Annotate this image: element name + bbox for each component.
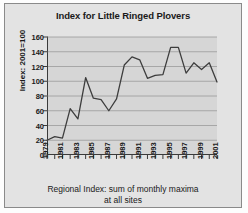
x-tick-1987: 1987 [103, 142, 112, 159]
x-axis-caption-line-1: Regional Index: sum of monthly maxima [5, 184, 241, 194]
x-tick-1979: 1979 [41, 142, 50, 159]
y-tick-120: 120 [31, 62, 44, 71]
x-tick-1997: 1997 [180, 142, 189, 159]
x-tick-1983: 1983 [72, 142, 81, 159]
y-tick-60: 60 [36, 106, 44, 115]
y-axis-label: Index: 2001=100 [18, 6, 27, 116]
y-tick-80: 80 [36, 92, 44, 101]
x-tick-1985: 1985 [87, 142, 96, 159]
x-tick-1989: 1989 [118, 142, 127, 159]
x-tick-1995: 1995 [165, 142, 174, 159]
chart-title: Index for Little Ringed Plovers [5, 10, 241, 21]
data-series-line [47, 37, 217, 155]
x-tick-1981: 1981 [56, 142, 65, 159]
y-tick-40: 40 [36, 121, 44, 130]
y-tick-140: 140 [31, 47, 44, 56]
x-tick-1999: 1999 [196, 142, 205, 159]
x-tick-2001: 2001 [211, 142, 220, 159]
x-tick-1991: 1991 [134, 142, 143, 159]
x-tick-1993: 1993 [149, 142, 158, 159]
y-tick-100: 100 [31, 77, 44, 86]
plot-wrapper: 020406080100120140160 197919811983198519… [47, 37, 217, 155]
chart-figure: Index for Little Ringed Plovers Index: 2… [4, 3, 242, 208]
y-tick-160: 160 [31, 33, 44, 42]
x-axis-caption-line-2: at all sites [5, 195, 241, 205]
